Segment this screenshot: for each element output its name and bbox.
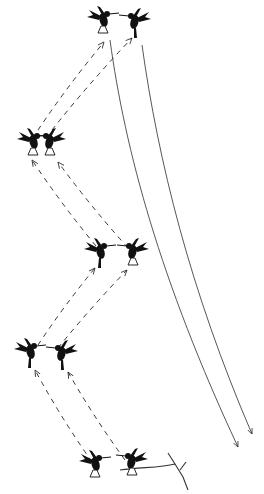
hummingbird-flight-diagram [0, 0, 264, 494]
dashed-arrow [68, 372, 125, 460]
hummingbird-icon [117, 238, 149, 265]
hummingbird-icon [84, 238, 116, 268]
hummingbird-icon [116, 448, 148, 475]
dashed-arrow [38, 42, 104, 130]
dashed-arrow [38, 268, 95, 345]
dashed-flight-arrows [32, 38, 132, 462]
hummingbird-icon [46, 340, 78, 370]
hummingbird-icon [119, 8, 151, 38]
hummingbird-icon [87, 6, 119, 33]
dashed-arrow [32, 160, 96, 246]
hummingbird-icon [34, 128, 66, 155]
hummingbird-icon [14, 338, 46, 368]
hummingbird-group [14, 6, 151, 477]
solid-arrow [142, 45, 252, 434]
diagram-canvas [0, 0, 264, 494]
hummingbird-icon [17, 128, 49, 155]
solid-descent-arrows [110, 40, 252, 447]
dashed-arrow [52, 38, 132, 130]
dashed-arrow [35, 370, 92, 462]
dashed-arrow [58, 162, 128, 248]
dashed-arrow [58, 270, 127, 348]
hummingbird-icon [79, 450, 111, 477]
